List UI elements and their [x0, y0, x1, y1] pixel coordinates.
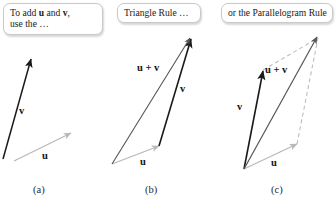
panel-a-label-v: v [19, 105, 24, 116]
panel-caption-c: (c) [271, 184, 283, 195]
panel-c-vector-u-plus-v [244, 37, 317, 169]
panel-b-vector-u [112, 146, 159, 164]
panel-b-label-u-plus-v: u + v [137, 62, 159, 73]
panel-a-label-u: u [42, 150, 48, 161]
vector-addition-figure: To add u and v, use the … Triangle Rule … [0, 0, 336, 211]
panel-c-label-u: u [271, 157, 277, 168]
panel-b-vector-v [159, 39, 191, 146]
panel-b-vector-u-plus-v [112, 38, 190, 164]
panel-c-label-v: v [237, 101, 242, 112]
panel-b-label-v: v [180, 83, 185, 94]
panel-caption-b: (b) [145, 184, 157, 195]
panel-a-vector-v [3, 59, 31, 159]
panel-c-label-u-plus-v: u + v [265, 64, 287, 75]
panel-caption-a: (a) [33, 184, 45, 195]
panel-b-label-u: u [140, 156, 146, 167]
panel-c-vector-v [244, 71, 263, 169]
vector-drawing-canvas [0, 0, 336, 211]
